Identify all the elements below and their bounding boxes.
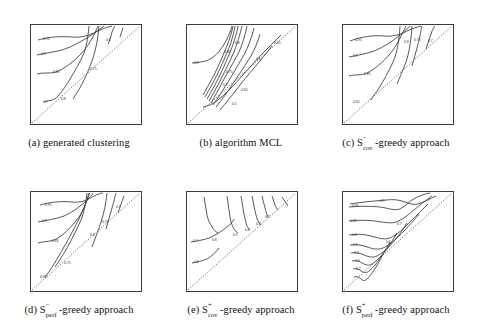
figure-row-bottom: 0.95 0.9 0.85 0.65 0.75 0.8 0.75 0.7 <box>0 167 478 334</box>
svg-text:0.8: 0.8 <box>90 233 95 237</box>
plot-frame-f: 0.9 0.95 0.85 0.7 0.8 0.6 0.5 0.4 0.3 0.… <box>342 191 454 292</box>
svg-text:0.85: 0.85 <box>350 219 357 223</box>
svg-text:0.8: 0.8 <box>212 238 217 242</box>
plot-panel-a: 0.95 0.9 0.85 0.7 0.8 0.75 0.6 <box>30 24 142 125</box>
svg-text:0.75: 0.75 <box>102 220 109 224</box>
svg-text:0.9: 0.9 <box>42 219 47 223</box>
svg-text:0.2: 0.2 <box>356 267 361 271</box>
caption-f-prefix: (f) <box>342 304 353 315</box>
caption-d-sup: − <box>46 302 50 309</box>
svg-text:0.4: 0.4 <box>354 251 359 255</box>
plot-frame-a: 0.95 0.9 0.85 0.7 0.8 0.75 0.6 <box>30 24 142 125</box>
svg-text:0.6: 0.6 <box>256 57 261 61</box>
plot-panel-f: 0.9 0.95 0.85 0.7 0.8 0.6 0.5 0.4 0.3 0.… <box>342 191 454 292</box>
svg-text:0.6: 0.6 <box>194 260 199 264</box>
figure-row-top: 0.95 0.9 0.85 0.7 0.8 0.75 0.6 <box>0 0 478 167</box>
svg-text:0.95: 0.95 <box>43 37 50 41</box>
svg-text:0.85: 0.85 <box>53 70 60 74</box>
svg-text:0.5: 0.5 <box>232 102 237 106</box>
svg-text:0.3: 0.3 <box>355 259 360 263</box>
svg-text:0.95: 0.95 <box>45 203 52 207</box>
caption-f-sup: + <box>362 302 366 309</box>
svg-text:0.7: 0.7 <box>223 83 228 87</box>
caption-panel-c: (c) S−cov-greedy approach <box>296 136 478 150</box>
svg-text:0.9: 0.9 <box>353 54 358 58</box>
svg-text:0.9: 0.9 <box>194 61 199 65</box>
caption-c-prefix: (c) <box>342 137 354 148</box>
svg-text:0.8: 0.8 <box>61 97 66 101</box>
plot-frame-c: 0.95 0.9 0.85 0.65 0.8 0.75 0.7 <box>342 24 454 125</box>
caption-d-symbol: S−perf <box>40 303 46 317</box>
caption-c-suffix: -greedy approach <box>375 137 450 148</box>
plot-frame-d: 0.95 0.9 0.85 0.65 0.75 0.8 0.75 0.7 <box>30 191 142 292</box>
svg-text:0.95: 0.95 <box>355 38 362 42</box>
caption-e-suffix: -greedy approach <box>220 304 295 315</box>
caption-c-sub: cov <box>363 145 373 152</box>
svg-text:0.65: 0.65 <box>353 100 360 104</box>
plot-frame-e: 0.6 0.7 0.8 0.5 0.4 0.3 0.2 <box>186 191 298 292</box>
plot-panel-e: 0.6 0.7 0.8 0.5 0.4 0.3 0.2 <box>186 191 298 292</box>
svg-text:0.95: 0.95 <box>352 204 359 208</box>
svg-text:0.7: 0.7 <box>397 222 402 226</box>
figure-contour-grid: 0.95 0.9 0.85 0.7 0.8 0.75 0.6 <box>0 0 478 334</box>
svg-text:0.85: 0.85 <box>364 72 371 76</box>
svg-text:0.65: 0.65 <box>241 88 248 92</box>
svg-text:0.9: 0.9 <box>380 199 385 203</box>
svg-text:0.75: 0.75 <box>226 70 233 74</box>
caption-c-sup: − <box>363 135 367 142</box>
caption-d-prefix: (d) <box>24 304 37 315</box>
svg-text:0.85: 0.85 <box>224 50 231 54</box>
caption-a-text: (a) generated clustering <box>28 137 130 148</box>
svg-text:0.3: 0.3 <box>256 222 261 226</box>
svg-text:0.65: 0.65 <box>40 275 47 279</box>
caption-f-sub: perf <box>362 312 373 319</box>
svg-text:0.7: 0.7 <box>193 239 198 243</box>
plot-panel-c: 0.95 0.9 0.85 0.65 0.8 0.75 0.7 <box>342 24 454 125</box>
caption-c-symbol: S−cov <box>357 136 363 150</box>
plot-panel-b: 0.9 0.85 0.8 0.75 0.7 0.65 0.6 0.55 0.5 <box>186 24 298 125</box>
caption-d-sub: perf <box>46 312 57 319</box>
svg-text:0.4: 0.4 <box>245 228 250 232</box>
svg-text:0.5: 0.5 <box>233 233 238 237</box>
caption-f-symbol: S+perf <box>356 303 362 317</box>
plot-frame-b: 0.9 0.85 0.8 0.75 0.7 0.65 0.6 0.55 0.5 <box>186 24 298 125</box>
svg-text:0.9: 0.9 <box>41 52 46 56</box>
svg-text:0.6: 0.6 <box>106 38 111 42</box>
svg-text:0.75: 0.75 <box>64 261 71 265</box>
svg-text:0.75: 0.75 <box>414 38 421 42</box>
caption-e-prefix: (e) <box>187 304 199 315</box>
svg-text:0.8: 0.8 <box>404 40 409 44</box>
svg-text:0.6: 0.6 <box>386 240 391 244</box>
caption-d-suffix: -greedy approach <box>59 304 134 315</box>
caption-e-sub: cov <box>208 312 218 319</box>
svg-text:0.55: 0.55 <box>274 41 281 45</box>
svg-text:0.7: 0.7 <box>116 205 121 209</box>
svg-text:0.75: 0.75 <box>90 67 97 71</box>
svg-text:0.85: 0.85 <box>52 239 59 243</box>
svg-text:0.7: 0.7 <box>43 100 48 104</box>
svg-text:0.5: 0.5 <box>353 243 358 247</box>
caption-f-suffix: -greedy approach <box>375 304 450 315</box>
svg-text:0.8: 0.8 <box>235 41 240 45</box>
caption-e-sup: + <box>208 302 212 309</box>
caption-e-symbol: S+cov <box>202 303 208 317</box>
caption-b-text: (b) algorithm MCL <box>200 137 283 148</box>
caption-panel-f: (f) S+perf-greedy approach <box>296 303 478 317</box>
svg-text:0.7: 0.7 <box>428 39 433 43</box>
svg-text:0.2: 0.2 <box>265 215 270 219</box>
svg-text:0.8: 0.8 <box>352 233 357 237</box>
plot-panel-d: 0.95 0.9 0.85 0.65 0.75 0.8 0.75 0.7 <box>30 191 142 292</box>
